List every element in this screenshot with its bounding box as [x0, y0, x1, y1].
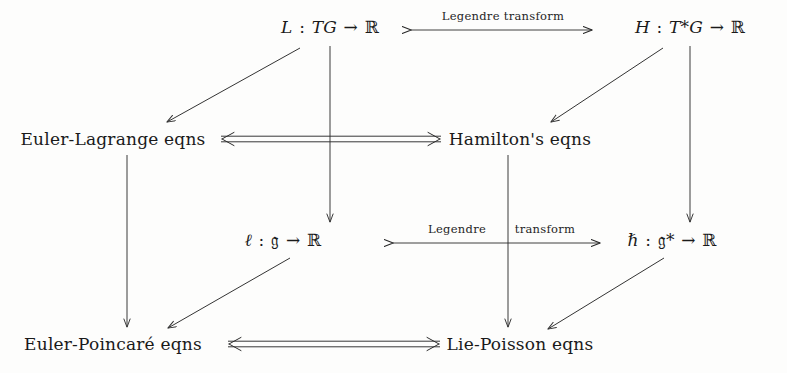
edge-euler-lagrange-hamilton-equivalence	[221, 132, 441, 145]
lagrangian-domain: TG	[312, 17, 337, 37]
node-reduced-lagrangian: ℓ : 𝔤 → ℝ	[245, 232, 322, 249]
reduced-lagrangian-domain: 𝔤	[271, 230, 279, 250]
edge-reduced-hamiltonian-to-lie-poisson	[548, 258, 664, 329]
edge-reduced-lagrangian-to-euler-poincare	[168, 258, 290, 328]
edge-label-transform-bottom-right: transform	[515, 222, 576, 236]
edge-euler-poincare-lie-poisson-equivalence	[228, 337, 440, 350]
arrow-layer	[0, 0, 787, 373]
hamiltonian-domain: T*G	[669, 17, 703, 37]
hamiltonian-codomain: ℝ	[731, 17, 745, 37]
node-euler-lagrange-eqns: Euler-Lagrange eqns	[20, 131, 205, 148]
edge-label-legendre-bottom-left: Legendre	[428, 222, 486, 236]
lagrangian-codomain: ℝ	[365, 17, 379, 37]
reduced-hamiltonian-codomain: ℝ	[702, 230, 716, 250]
reduced-lagrangian-codomain: ℝ	[307, 230, 321, 250]
node-hamiltonian: H : T*G → ℝ	[635, 19, 745, 36]
reduced-hamiltonian-domain: 𝔤*	[658, 230, 675, 250]
reduction-diagram: L : TG → ℝ H : T*G → ℝ Euler-Lagrange eq…	[0, 0, 787, 373]
edge-hamiltonian-to-hamilton	[551, 48, 663, 122]
lagrangian-symbol: L	[281, 17, 293, 37]
reduced-hamiltonian-symbol: ℏ	[627, 230, 638, 250]
node-lagrangian: L : TG → ℝ	[281, 19, 379, 36]
hamiltonian-symbol: H	[635, 17, 650, 37]
edge-label-legendre-transform-top: Legendre transform	[442, 9, 565, 23]
edge-lagrangian-to-euler-lagrange	[167, 48, 300, 122]
node-lie-poisson-eqns: Lie-Poisson eqns	[447, 336, 594, 353]
node-hamiltons-eqns: Hamilton's eqns	[449, 131, 591, 148]
node-euler-poincare-eqns: Euler-Poincaré eqns	[24, 336, 202, 353]
node-reduced-hamiltonian: ℏ : 𝔤* → ℝ	[627, 232, 716, 249]
